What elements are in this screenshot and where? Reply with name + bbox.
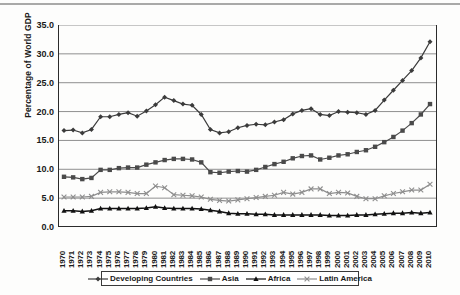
x-axis-tick-2003: 2003 xyxy=(360,251,369,268)
x-axis-tick-1992: 1992 xyxy=(259,251,268,268)
x-axis-tick-2006: 2006 xyxy=(387,251,396,268)
legend-marker-triangle-icon xyxy=(246,274,266,284)
legend-label: Latin America xyxy=(319,274,372,283)
x-axis-tick-2009: 2009 xyxy=(415,251,424,268)
y-axis-tick-labels: 0.05.010.015.020.025.030.035.0 xyxy=(18,18,54,234)
x-axis-tick-1980: 1980 xyxy=(150,251,159,268)
x-axis-tick-1987: 1987 xyxy=(214,251,223,268)
legend-marker-x-icon xyxy=(297,274,317,284)
x-axis-tick-1972: 1972 xyxy=(76,251,85,268)
legend-item-asia[interactable]: Asia xyxy=(200,274,239,284)
x-axis-tick-1996: 1996 xyxy=(296,251,305,268)
legend-label: Developing Countries xyxy=(110,274,193,283)
x-axis-tick-1974: 1974 xyxy=(95,251,104,268)
x-axis-tick-2002: 2002 xyxy=(351,251,360,268)
x-axis-tick-1982: 1982 xyxy=(168,251,177,268)
legend-item-latin-america[interactable]: Latin America xyxy=(297,274,372,284)
x-axis-tick-1990: 1990 xyxy=(241,251,250,268)
legend-label: Asia xyxy=(222,274,239,283)
x-axis-tick-1971: 1971 xyxy=(67,251,76,268)
x-axis-tick-1977: 1977 xyxy=(122,251,131,268)
plot-area xyxy=(58,25,437,227)
x-axis-tick-1975: 1975 xyxy=(104,251,113,268)
x-axis-tick-1985: 1985 xyxy=(195,251,204,268)
x-axis-tick-1997: 1997 xyxy=(305,251,314,268)
y-axis-tick-5-0: 5.0 xyxy=(18,193,54,203)
y-axis-tick-20-0: 20.0 xyxy=(18,107,54,117)
x-axis-tick-1994: 1994 xyxy=(278,251,287,268)
x-axis-tick-2004: 2004 xyxy=(369,251,378,268)
x-axis-tick-1991: 1991 xyxy=(250,251,259,268)
y-axis-tick-35-0: 35.0 xyxy=(18,20,54,30)
y-axis-tick-30-0: 30.0 xyxy=(18,49,54,59)
x-axis-tick-1979: 1979 xyxy=(140,251,149,268)
x-axis-tick-1998: 1998 xyxy=(314,251,323,268)
x-axis-tick-1995: 1995 xyxy=(287,251,296,268)
legend-item-africa[interactable]: Africa xyxy=(246,274,291,284)
x-axis-tick-1993: 1993 xyxy=(268,251,277,268)
x-axis-tick-2005: 2005 xyxy=(378,251,387,268)
x-axis-tick-2000: 2000 xyxy=(333,251,342,268)
y-axis-tick-25-0: 25.0 xyxy=(18,78,54,88)
chart-legend: Developing CountriesAsiaAfricaLatin Amer… xyxy=(101,271,359,286)
y-axis-tick-15-0: 15.0 xyxy=(18,135,54,145)
x-axis-tick-2001: 2001 xyxy=(342,251,351,268)
x-axis-tick-labels: 1970197119721973197419751976197719781979… xyxy=(58,230,437,268)
series-latin-america xyxy=(62,182,433,204)
legend-marker-diamond-icon xyxy=(88,274,108,284)
series-africa xyxy=(61,204,432,217)
x-axis-tick-1988: 1988 xyxy=(223,251,232,268)
x-axis-tick-1999: 1999 xyxy=(323,251,332,268)
legend-item-developing-countries[interactable]: Developing Countries xyxy=(88,274,193,284)
x-axis-tick-1976: 1976 xyxy=(113,251,122,268)
x-axis-tick-1984: 1984 xyxy=(186,251,195,268)
x-axis-tick-1978: 1978 xyxy=(131,251,140,268)
x-axis-tick-2008: 2008 xyxy=(406,251,415,268)
chart-svg xyxy=(58,25,437,227)
legend-marker-square-icon xyxy=(200,274,220,284)
x-axis-tick-1970: 1970 xyxy=(58,251,67,268)
x-axis-tick-1986: 1986 xyxy=(204,251,213,268)
chart-figure: Percentage of World GDP 0.05.010.015.020… xyxy=(0,0,460,295)
x-axis-tick-2007: 2007 xyxy=(397,251,406,268)
x-axis-tick-1989: 1989 xyxy=(232,251,241,268)
x-axis-tick-1981: 1981 xyxy=(159,251,168,268)
x-axis-tick-1973: 1973 xyxy=(85,251,94,268)
legend-label: Africa xyxy=(268,274,291,283)
data-series-layer xyxy=(61,39,432,217)
y-axis-tick-10-0: 10.0 xyxy=(18,164,54,174)
x-axis-tick-2010: 2010 xyxy=(424,251,433,268)
x-axis-tick-1983: 1983 xyxy=(177,251,186,268)
y-axis-tick-0-0: 0.0 xyxy=(18,222,54,232)
